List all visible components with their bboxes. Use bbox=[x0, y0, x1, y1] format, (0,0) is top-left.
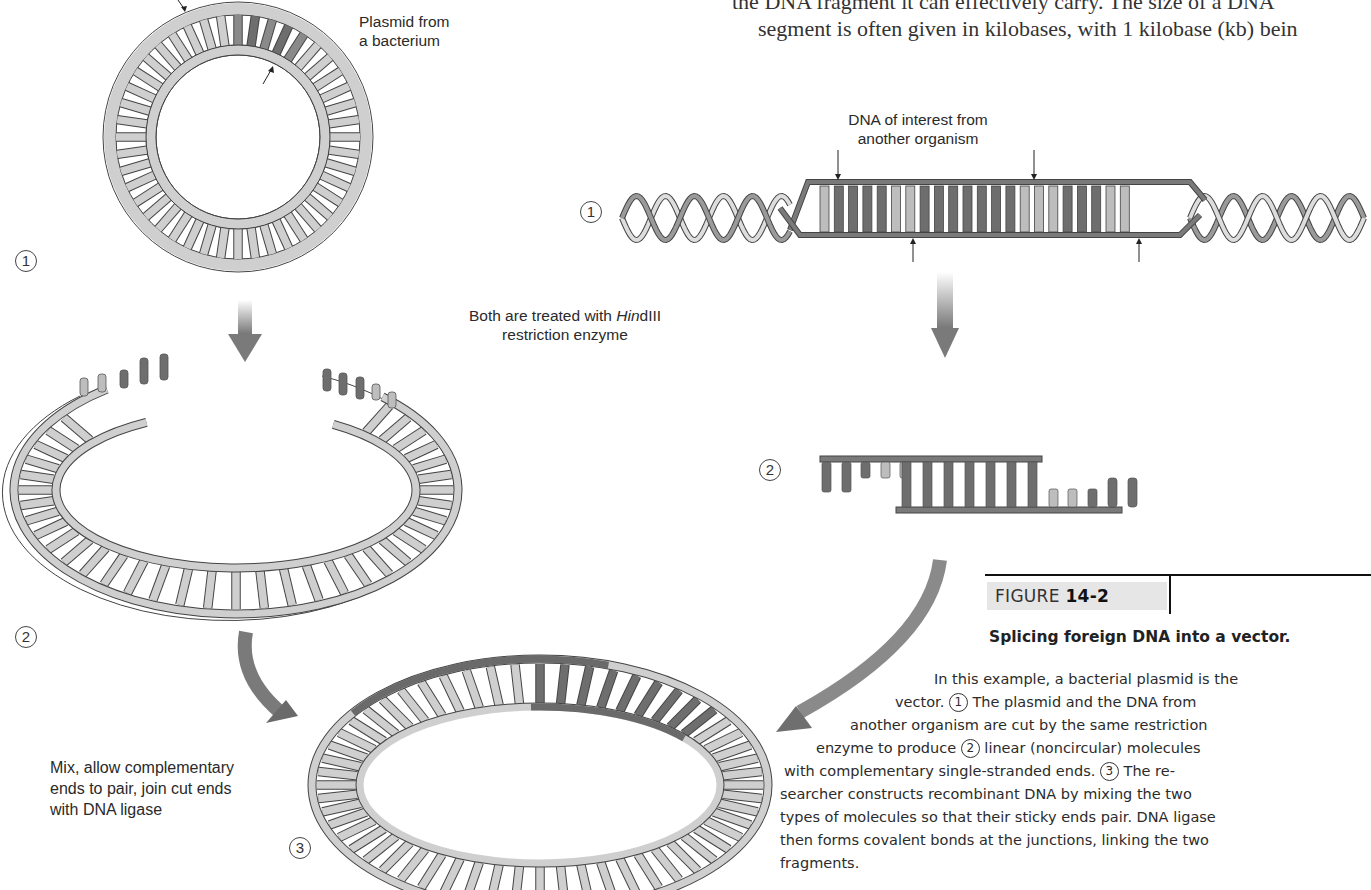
figure-tag: FIGURE 14-2 bbox=[987, 582, 1167, 610]
mix-label: Mix, allow complementary ends to pair, j… bbox=[50, 757, 234, 820]
treatment-prefix: Both are treated with bbox=[469, 307, 616, 324]
figure-number: 14-2 bbox=[1065, 586, 1109, 606]
caption-line-5: with complementary single-stranded ends.… bbox=[780, 760, 1371, 783]
caption-text: enzyme to produce bbox=[816, 740, 961, 756]
dna-label-line-2: another organism bbox=[818, 129, 1018, 148]
treatment-label-line-2: restriction enzyme bbox=[440, 325, 690, 344]
caption-text: with complementary single-stranded ends. bbox=[784, 763, 1100, 779]
caption-line-9: fragments. bbox=[780, 852, 1371, 875]
caption-line-4: enzyme to produce 2 linear (noncircular)… bbox=[780, 737, 1371, 760]
plasmid-label: Plasmid from a bacterium bbox=[359, 12, 449, 50]
figure-tag-prefix: FIGURE bbox=[995, 586, 1065, 606]
mix-label-line-2: ends to pair, join cut ends bbox=[50, 778, 234, 799]
caption-line-7: types of molecules so that their sticky … bbox=[780, 806, 1371, 829]
dna-label-line-1: DNA of interest from bbox=[818, 110, 1018, 129]
caption-line-6: searcher constructs recombinant DNA by m… bbox=[780, 783, 1371, 806]
step-marker-bottom-3: 3 bbox=[289, 837, 311, 859]
mix-label-line-3: with DNA ligase bbox=[50, 799, 234, 820]
plasmid-label-line-1: Plasmid from bbox=[359, 12, 449, 31]
figure-caption: In this example, a bacterial plasmid is … bbox=[780, 668, 1371, 875]
caption-line-8: then forms covalent bonds at the junctio… bbox=[780, 829, 1371, 852]
caption-text: linear (noncircular) molecules bbox=[980, 740, 1201, 756]
caption-text: The plasmid and the DNA from bbox=[968, 694, 1196, 710]
caption-text: vector. bbox=[895, 694, 949, 710]
caption-line-1: In this example, a bacterial plasmid is … bbox=[780, 668, 1371, 691]
caption-text: The re- bbox=[1119, 763, 1175, 779]
enzyme-italic: Hin bbox=[616, 307, 639, 324]
figure-title: Splicing foreign DNA into a vector. bbox=[989, 628, 1290, 646]
step-marker-left-1: 1 bbox=[15, 250, 37, 272]
enzyme-suffix: dIII bbox=[640, 307, 662, 324]
step-marker-right-2: 2 bbox=[759, 459, 781, 481]
caption-step-1: 1 bbox=[949, 693, 968, 712]
caption-line-2: vector. 1 The plasmid and the DNA from bbox=[780, 691, 1371, 714]
mix-label-line-1: Mix, allow complementary bbox=[50, 757, 234, 778]
caption-step-2: 2 bbox=[961, 739, 980, 758]
dna-of-interest-label: DNA of interest from another organism bbox=[818, 110, 1018, 148]
step-marker-right-1: 1 bbox=[580, 201, 602, 223]
step-marker-left-2: 2 bbox=[15, 626, 37, 648]
plasmid-label-line-2: a bacterium bbox=[359, 31, 449, 50]
caption-line-3: another organism are cut by the same res… bbox=[780, 714, 1371, 737]
caption-step-3: 3 bbox=[1100, 762, 1119, 781]
treatment-label-line-1: Both are treated with HindIII bbox=[440, 306, 690, 325]
treatment-label: Both are treated with HindIII restrictio… bbox=[440, 306, 690, 344]
